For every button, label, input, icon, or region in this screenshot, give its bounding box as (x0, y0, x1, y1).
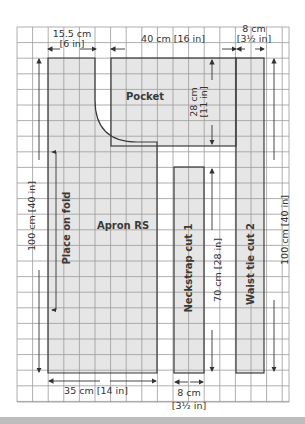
pattern-diagram: 15.5 cm [6 in] 40 cm [16 in] 8 cm [3½ in… (0, 0, 305, 424)
bottom-rule (0, 417, 305, 424)
dim-neckstrap-length: 70 cm [28 in] (212, 238, 223, 302)
dim-neckstrap-width-in: [3½ in] (172, 400, 206, 411)
dim-neckstrap-width-cm: 8 cm (177, 387, 201, 398)
dim-top-right-in: [3½ in] (237, 33, 271, 44)
fold-label: Place on fold (61, 192, 72, 265)
dim-top-left-in: [6 in] (59, 38, 84, 49)
dim-top-mid: 40 cm [16 in] (141, 33, 205, 44)
dim-pocket-height-in: [11 in] (198, 86, 209, 117)
dim-waist-tie-length: 100 cm [40 in] (279, 195, 290, 265)
dim-apron-height: 100 cm [40 in] (26, 181, 37, 251)
apron-label: Apron RS (97, 220, 149, 231)
neckstrap-label: Neckstrap cut 1 (183, 223, 194, 312)
dim-apron-width: 35 cm [14 in] (64, 385, 128, 396)
pocket-label: Pocket (126, 91, 164, 102)
pocket-piece (111, 58, 236, 146)
waist-tie-label: Waist tie cut 2 (245, 223, 256, 305)
